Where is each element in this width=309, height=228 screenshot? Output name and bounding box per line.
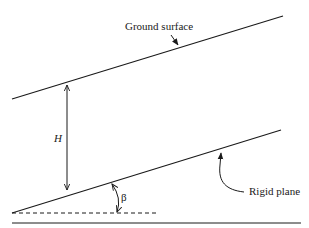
- slope-diagram: Ground surface H β Rigid plane: [0, 0, 309, 228]
- height-label: H: [53, 132, 63, 144]
- ground-surface-pointer-arrow: [171, 35, 178, 45]
- rigid-plane-line: [12, 130, 281, 213]
- angle-arc-arrow: [112, 184, 119, 212]
- rigid-plane-pointer-arrow: [220, 153, 244, 192]
- rigid-plane-label: Rigid plane: [249, 185, 300, 197]
- angle-label: β: [121, 191, 127, 203]
- ground-surface-label: Ground surface: [125, 20, 193, 32]
